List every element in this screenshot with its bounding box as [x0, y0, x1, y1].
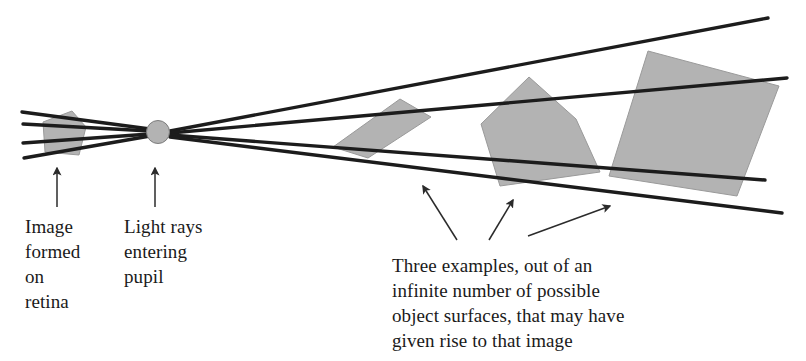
label-image-formed-on-retina: Image formed on retina [25, 214, 80, 314]
label-light-rays-entering-pupil: Light rays entering pupil [124, 214, 203, 289]
arrow-to-surface-far [528, 206, 610, 236]
label-possible-object-surfaces: Three examples, out of an infinite numbe… [392, 253, 624, 353]
figure-canvas: Image formed on retina Light rays enteri… [0, 0, 806, 361]
pupil-circle [147, 121, 170, 144]
arrow-to-surface-near [423, 186, 457, 240]
object-surface-middle [481, 77, 600, 186]
arrow-to-surface-middle [489, 200, 513, 240]
